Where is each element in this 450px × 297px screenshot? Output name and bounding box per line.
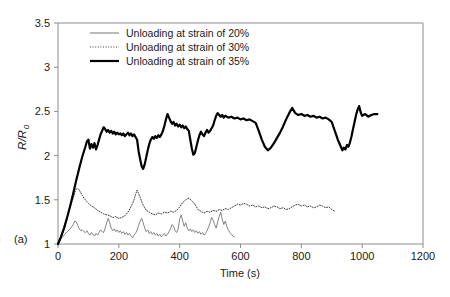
x-tick-label: 1200 [411, 250, 435, 262]
legend-label-0: Unloading at strain of 20% [126, 27, 249, 39]
panel-label: (a) [14, 233, 27, 245]
y-axis-title-main: R/R [16, 130, 28, 150]
x-tick-label: 600 [231, 250, 249, 262]
chart-canvas: 020040060080010001200 11.522.533.5 Unloa… [0, 0, 450, 297]
y-axis-title-subscript: 0 [22, 124, 31, 129]
x-tick-label: 1000 [350, 250, 374, 262]
figure-panel-a: 020040060080010001200 11.522.533.5 Unloa… [0, 0, 450, 297]
legend-label-2: Unloading at strain of 35% [126, 55, 249, 67]
x-tick-label: 800 [292, 250, 310, 262]
x-tick-label: 200 [110, 250, 128, 262]
x-axis-title: Time (s) [220, 267, 260, 279]
y-tick-label: 3.5 [35, 17, 50, 29]
y-tick-label: 2.5 [35, 105, 50, 117]
x-tick-label: 400 [170, 250, 188, 262]
y-tick-label: 3 [44, 61, 50, 73]
chart-legend: Unloading at strain of 20%Unloading at s… [90, 27, 249, 67]
legend-label-1: Unloading at strain of 30% [126, 41, 249, 53]
y-tick-label: 2 [44, 150, 50, 162]
y-tick-label: 1 [44, 238, 50, 250]
y-tick-label: 1.5 [35, 194, 50, 206]
x-tick-label: 0 [55, 250, 61, 262]
